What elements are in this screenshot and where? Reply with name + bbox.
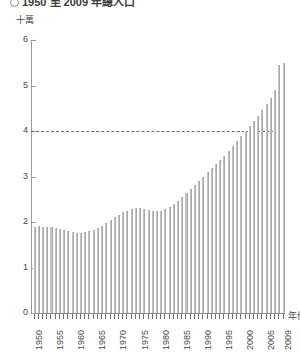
x-tick-mark bbox=[215, 314, 216, 319]
bar bbox=[142, 209, 145, 313]
x-tick-mark bbox=[156, 314, 157, 319]
bar bbox=[265, 104, 268, 313]
bar bbox=[218, 160, 221, 313]
x-tick-mark bbox=[228, 314, 229, 319]
bar bbox=[96, 228, 99, 313]
x-tick-mark bbox=[245, 314, 246, 319]
bar bbox=[155, 211, 158, 313]
bar bbox=[235, 141, 238, 313]
bar bbox=[134, 208, 137, 313]
bar bbox=[222, 156, 225, 313]
x-tick-mark bbox=[194, 314, 195, 319]
bar bbox=[184, 193, 187, 313]
x-tick-mark bbox=[148, 314, 149, 319]
x-tick-mark bbox=[76, 314, 77, 319]
x-axis-labels: 1950195519601965197019751980198519901995… bbox=[32, 320, 285, 358]
bar bbox=[159, 211, 162, 313]
bar bbox=[71, 232, 74, 313]
bar bbox=[151, 211, 154, 313]
bar bbox=[62, 230, 65, 313]
bar bbox=[130, 209, 133, 313]
bar bbox=[180, 197, 183, 313]
x-tick-mark bbox=[266, 314, 267, 319]
bar bbox=[45, 227, 48, 313]
x-tick-mark bbox=[152, 314, 153, 319]
x-tick-mark bbox=[253, 314, 254, 319]
bar bbox=[92, 230, 95, 313]
chart-title: 1950 至 2009 年總人口 bbox=[10, 0, 135, 9]
bar bbox=[83, 232, 86, 313]
x-tick-mark bbox=[257, 314, 258, 319]
bar bbox=[100, 226, 103, 313]
x-axis-ticks bbox=[32, 314, 285, 319]
bar-slot bbox=[281, 40, 285, 313]
y-tick-label: 0 bbox=[14, 308, 28, 317]
x-tick-mark bbox=[110, 314, 111, 319]
x-tick-mark bbox=[164, 314, 165, 319]
bar bbox=[109, 220, 112, 313]
x-tick-mark bbox=[207, 314, 208, 319]
x-tick-mark bbox=[72, 314, 73, 319]
bar bbox=[66, 231, 69, 313]
bar bbox=[176, 201, 179, 313]
x-tick-mark bbox=[42, 314, 43, 319]
bar bbox=[41, 227, 44, 313]
x-tick-mark bbox=[177, 314, 178, 319]
bar bbox=[117, 215, 120, 313]
x-tick-mark bbox=[236, 314, 237, 319]
bar bbox=[147, 210, 150, 313]
bar bbox=[269, 98, 272, 313]
x-tick-mark bbox=[126, 314, 127, 319]
x-tick-mark bbox=[101, 314, 102, 319]
bar bbox=[248, 126, 251, 313]
x-tick-mark bbox=[278, 314, 279, 319]
x-tick-mark bbox=[283, 314, 284, 319]
x-tick-mark bbox=[219, 314, 220, 319]
bar bbox=[210, 168, 213, 313]
x-tick-mark bbox=[202, 314, 203, 319]
bar bbox=[201, 177, 204, 314]
bar bbox=[168, 207, 171, 313]
x-tick-mark bbox=[190, 314, 191, 319]
x-tick-mark bbox=[232, 314, 233, 319]
bar bbox=[54, 228, 57, 313]
bar bbox=[277, 65, 280, 313]
bar bbox=[113, 217, 116, 313]
bars-container bbox=[32, 40, 285, 313]
bar bbox=[244, 131, 247, 313]
x-tick-mark bbox=[105, 314, 106, 319]
bar bbox=[214, 164, 217, 313]
bar bbox=[231, 146, 234, 313]
bar bbox=[163, 209, 166, 313]
bar bbox=[193, 185, 196, 313]
bar bbox=[125, 211, 128, 313]
x-tick-slot bbox=[281, 314, 285, 319]
x-tick-mark bbox=[80, 314, 81, 319]
x-tick-mark bbox=[181, 314, 182, 319]
x-tick-mark bbox=[211, 314, 212, 319]
y-tick-label: 6 bbox=[14, 35, 28, 44]
x-tick-mark bbox=[160, 314, 161, 319]
x-tick-mark bbox=[46, 314, 47, 319]
bar bbox=[227, 151, 230, 313]
x-tick-mark bbox=[249, 314, 250, 319]
bar bbox=[172, 204, 175, 313]
x-tick-mark bbox=[240, 314, 241, 319]
x-tick-mark bbox=[118, 314, 119, 319]
y-tick-label: 2 bbox=[14, 217, 28, 226]
bar bbox=[75, 233, 78, 313]
population-bar-chart: 1950 至 2009 年總人口 十萬 0123456 195019551960… bbox=[0, 0, 300, 359]
x-tick-mark bbox=[139, 314, 140, 319]
y-tick-label: 3 bbox=[14, 172, 28, 181]
bar bbox=[197, 181, 200, 313]
x-tick-mark bbox=[38, 314, 39, 319]
y-tick-label: 1 bbox=[14, 263, 28, 272]
x-tick-mark bbox=[185, 314, 186, 319]
x-tick-label: 2009 bbox=[283, 330, 293, 350]
x-tick-mark bbox=[169, 314, 170, 319]
x-tick-mark bbox=[84, 314, 85, 319]
bar bbox=[282, 63, 285, 313]
circle-bullet-icon bbox=[10, 0, 19, 7]
bar bbox=[256, 116, 259, 313]
x-tick-mark bbox=[131, 314, 132, 319]
